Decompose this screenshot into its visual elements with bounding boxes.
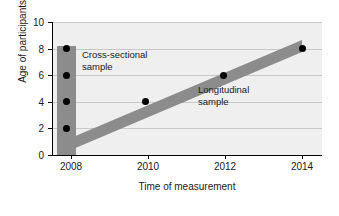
x-axis-title: Time of measurement (52, 181, 322, 192)
annotation-cross-sectional: Cross-sectional sample (82, 49, 147, 72)
data-point-longitudinal-2010-4 (142, 98, 149, 105)
y-tick-label-4: 4 (0, 96, 44, 107)
y-tick-label-2: 2 (0, 123, 44, 134)
x-tick-2010 (148, 155, 149, 159)
y-tick-label-8: 8 (0, 43, 44, 54)
data-point-longitudinal-2012-6 (220, 72, 227, 79)
x-tick-label-2012: 2012 (214, 161, 236, 172)
annotation-longitudinal: Longitudinal sample (198, 84, 249, 107)
data-point-cross-sectional-2008-6 (63, 72, 70, 79)
x-tick-label-2014: 2014 (291, 161, 313, 172)
x-axis-line (52, 155, 322, 156)
x-tick-2012 (225, 155, 226, 159)
longitudinal-band (52, 22, 322, 155)
x-tick-2014 (302, 155, 303, 159)
y-tick-label-6: 6 (0, 70, 44, 81)
chart-figure: Age of participants (years) 10 8 6 4 2 0 (0, 0, 339, 216)
data-point-longitudinal-2014-8 (299, 45, 306, 52)
x-tick-label-2010: 2010 (137, 161, 159, 172)
y-tick-label-0: 0 (0, 150, 44, 161)
x-tick-2008 (71, 155, 72, 159)
y-axis-line (52, 22, 53, 156)
plot-area: Cross-sectional sample Longitudinal samp… (52, 22, 322, 155)
x-tick-label-2008: 2008 (60, 161, 82, 172)
y-tick-label-10: 10 (0, 17, 44, 28)
data-point-cross-sectional-2008-2 (63, 125, 70, 132)
